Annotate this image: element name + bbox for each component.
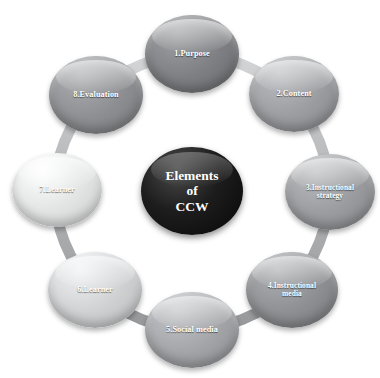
cycle-node-3[interactable]: 3.Instructionalstrategy [285, 154, 375, 230]
cycle-node-line-1: 5.Social media [166, 326, 218, 335]
cycle-node-label: 2.Content [273, 90, 314, 99]
cycle-node-line-2: media [268, 290, 316, 298]
cycle-node-1[interactable]: 1.Purpose [145, 15, 239, 93]
cycle-node-line-1: 7.Learner [39, 186, 75, 195]
cycle-node-line-1: 8.Evaluation [73, 91, 119, 100]
cycle-node-label: 5.Social media [163, 326, 221, 335]
cycle-node-4[interactable]: 4.Instructionalmedia [246, 252, 338, 328]
cycle-node-2[interactable]: 2.Content [249, 56, 339, 132]
cycle-node-line-1: 2.Content [276, 90, 311, 99]
center-line-2: of [165, 183, 218, 198]
cycle-node-label: 4.Instructionalmedia [265, 282, 319, 297]
center-label: Elements of CCW [165, 168, 218, 213]
center-line-1: Elements [165, 168, 218, 183]
cycle-node-6[interactable]: 6.Learner [48, 252, 142, 328]
cycle-node-label: 7.Learner [36, 186, 78, 195]
cycle-node-8[interactable]: 8.Evaluation [49, 56, 143, 134]
cycle-node-label: 8.Evaluation [70, 91, 122, 100]
center-line-3: CCW [165, 199, 218, 214]
cycle-node-line-2: strategy [306, 192, 354, 200]
cycle-node-label: 1.Purpose [171, 50, 213, 59]
cycle-node-5[interactable]: 5.Social media [145, 292, 239, 368]
diagram-canvas: Elements of CCW 1.Purpose2.Content3.Inst… [0, 0, 380, 378]
cycle-node-line-1: 6.Learner [77, 286, 113, 295]
center-node: Elements of CCW [141, 147, 243, 235]
cycle-node-line-1: 1.Purpose [174, 50, 210, 59]
cycle-node-7[interactable]: 7.Learner [12, 153, 102, 227]
cycle-node-label: 3.Instructionalstrategy [303, 184, 357, 199]
cycle-node-label: 6.Learner [74, 286, 116, 295]
